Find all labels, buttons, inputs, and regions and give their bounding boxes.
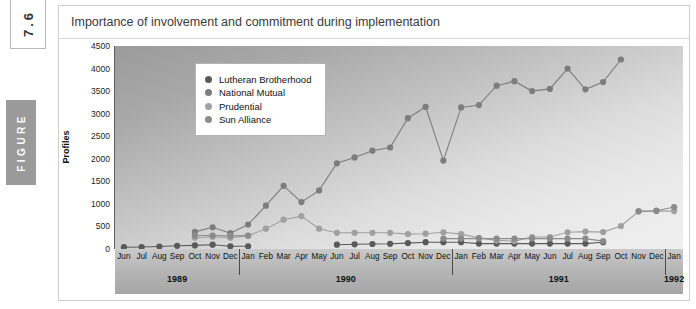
x-axis-year-label: 1989 bbox=[167, 274, 187, 284]
data-point-marker[interactable] bbox=[600, 238, 606, 244]
x-axis-tick: Mar bbox=[277, 252, 291, 261]
data-point-marker[interactable] bbox=[618, 223, 624, 229]
x-axis-tick: Nov bbox=[205, 252, 220, 261]
data-point-marker[interactable] bbox=[352, 230, 358, 236]
data-point-marker[interactable] bbox=[511, 78, 517, 84]
data-point-marker[interactable] bbox=[440, 229, 446, 235]
x-axis-tick: Nov bbox=[418, 252, 433, 261]
data-point-marker[interactable] bbox=[210, 242, 216, 248]
data-point-marker[interactable] bbox=[352, 241, 358, 247]
data-point-marker[interactable] bbox=[423, 231, 429, 237]
data-point-marker[interactable] bbox=[582, 229, 588, 235]
y-axis-tick: 3000 bbox=[91, 109, 110, 119]
data-point-marker[interactable] bbox=[618, 56, 624, 62]
data-point-marker[interactable] bbox=[334, 242, 340, 248]
data-point-marker[interactable] bbox=[192, 242, 198, 248]
data-point-marker[interactable] bbox=[547, 86, 553, 92]
data-point-marker[interactable] bbox=[565, 229, 571, 235]
data-point-marker[interactable] bbox=[281, 217, 287, 223]
x-axis-year-label: 1992 bbox=[664, 274, 684, 284]
data-point-marker[interactable] bbox=[600, 229, 606, 235]
x-axis-tick: Jul bbox=[136, 252, 146, 261]
data-point-marker[interactable] bbox=[458, 104, 464, 110]
data-point-marker[interactable] bbox=[494, 83, 500, 89]
data-point-marker[interactable] bbox=[582, 236, 588, 242]
data-point-marker[interactable] bbox=[387, 241, 393, 247]
data-point-marker[interactable] bbox=[298, 213, 304, 219]
data-point-marker[interactable] bbox=[405, 115, 411, 121]
data-point-marker[interactable] bbox=[387, 144, 393, 150]
data-point-marker[interactable] bbox=[547, 236, 553, 242]
x-axis-tick: Dec bbox=[223, 252, 238, 261]
x-axis-tick: Sep bbox=[383, 252, 398, 261]
chart-container: Profiles 0500100015002000250030003500400… bbox=[67, 46, 683, 294]
data-point-marker[interactable] bbox=[582, 86, 588, 92]
data-point-marker[interactable] bbox=[405, 240, 411, 246]
data-point-marker[interactable] bbox=[387, 230, 393, 236]
data-point-marker[interactable] bbox=[511, 236, 517, 242]
data-point-marker[interactable] bbox=[263, 203, 269, 209]
x-axis-tick: Jun bbox=[543, 252, 556, 261]
x-axis-tick: May bbox=[311, 252, 326, 261]
x-axis-tick: Jan bbox=[668, 252, 681, 261]
data-point-marker[interactable] bbox=[476, 236, 482, 242]
data-point-marker[interactable] bbox=[600, 79, 606, 85]
data-point-marker[interactable] bbox=[334, 230, 340, 236]
data-point-marker[interactable] bbox=[210, 232, 216, 238]
data-point-marker[interactable] bbox=[245, 222, 251, 228]
data-point-marker[interactable] bbox=[263, 226, 269, 232]
data-point-marker[interactable] bbox=[653, 208, 659, 214]
x-axis-tick: Dec bbox=[436, 252, 451, 261]
data-point-marker[interactable] bbox=[458, 236, 464, 242]
chart-title: Importance of involvement and commitment… bbox=[59, 6, 689, 39]
x-axis-tick: Apr bbox=[295, 252, 308, 261]
y-axis-tick: 1000 bbox=[91, 199, 110, 209]
data-point-marker[interactable] bbox=[440, 158, 446, 164]
data-point-marker[interactable] bbox=[298, 199, 304, 205]
data-point-marker[interactable] bbox=[316, 187, 322, 193]
data-point-marker[interactable] bbox=[423, 239, 429, 245]
year-separator bbox=[452, 249, 453, 275]
data-point-marker[interactable] bbox=[334, 160, 340, 166]
data-point-marker[interactable] bbox=[529, 236, 535, 242]
data-point-marker[interactable] bbox=[565, 66, 571, 72]
x-axis-tick: Feb bbox=[259, 252, 273, 261]
data-point-marker[interactable] bbox=[192, 232, 198, 238]
y-axis-ticks: 050010001500200025003000350040004500 bbox=[67, 46, 113, 249]
x-axis-tick: May bbox=[524, 252, 539, 261]
data-point-marker[interactable] bbox=[423, 104, 429, 110]
data-point-marker[interactable] bbox=[671, 204, 677, 210]
data-point-marker[interactable] bbox=[565, 236, 571, 242]
x-axis-tick: Oct bbox=[189, 252, 202, 261]
x-axis-year-label: 1991 bbox=[549, 274, 569, 284]
data-point-marker[interactable] bbox=[476, 102, 482, 108]
x-axis-tick: Jul bbox=[349, 252, 359, 261]
data-point-marker[interactable] bbox=[245, 232, 251, 238]
figure-word-box: FIGURE bbox=[6, 100, 36, 185]
x-axis-tick: Oct bbox=[402, 252, 415, 261]
data-point-marker[interactable] bbox=[227, 233, 233, 239]
x-axis-tick: Jul bbox=[562, 252, 572, 261]
y-axis-tick: 500 bbox=[96, 221, 110, 231]
x-axis-tick: Sep bbox=[170, 252, 185, 261]
y-axis-tick: 4000 bbox=[91, 64, 110, 74]
data-point-marker[interactable] bbox=[440, 236, 446, 242]
data-point-marker[interactable] bbox=[281, 183, 287, 189]
data-point-marker[interactable] bbox=[636, 208, 642, 214]
year-separator bbox=[665, 249, 666, 275]
series-lines bbox=[115, 46, 683, 249]
data-point-marker[interactable] bbox=[529, 88, 535, 94]
plot-area: Lutheran BrotherhoodNational MutualPrude… bbox=[115, 46, 683, 249]
x-axis-tick: Aug bbox=[152, 252, 167, 261]
data-point-marker[interactable] bbox=[210, 224, 216, 230]
data-point-marker[interactable] bbox=[174, 243, 180, 249]
data-point-marker[interactable] bbox=[316, 226, 322, 232]
x-axis-band: JunJulAugSepOctNovDecJanFebMarAprMayJunJ… bbox=[115, 249, 683, 294]
data-point-marker[interactable] bbox=[352, 154, 358, 160]
x-axis-tick: Sep bbox=[596, 252, 611, 261]
data-point-marker[interactable] bbox=[494, 236, 500, 242]
data-point-marker[interactable] bbox=[405, 231, 411, 237]
data-point-marker[interactable] bbox=[369, 230, 375, 236]
data-point-marker[interactable] bbox=[369, 241, 375, 247]
data-point-marker[interactable] bbox=[369, 148, 375, 154]
